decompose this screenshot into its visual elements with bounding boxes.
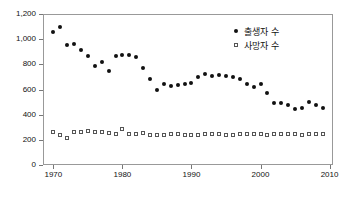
x-tick-mark [53,165,54,169]
data-point-births [155,88,159,92]
data-point-deaths [51,130,55,134]
open-square-icon [228,43,244,47]
x-tick-mark [122,165,123,169]
data-point-deaths [148,133,152,137]
data-point-deaths [162,133,166,137]
data-point-deaths [93,130,97,134]
data-point-births [176,83,180,87]
data-point-births [114,54,118,58]
data-point-births [86,54,90,58]
data-point-deaths [231,133,235,137]
data-point-deaths [272,132,276,136]
data-point-deaths [176,132,180,136]
x-tick-mark [330,165,331,169]
data-point-births [307,100,311,104]
x-tick-mark [261,165,262,169]
data-point-births [314,103,318,107]
data-point-deaths [86,129,90,133]
data-point-births [183,82,187,86]
x-tick-label: 1980 [113,171,131,179]
legend-item-deaths: 사망자 수 [228,38,279,52]
data-point-births [252,85,256,89]
data-point-deaths [169,132,173,136]
data-point-births [93,64,97,68]
data-point-births [279,101,283,105]
x-tick-label: 1990 [183,171,201,179]
data-point-births [100,60,104,64]
data-point-births [148,77,152,81]
data-point-deaths [127,132,131,136]
data-point-deaths [210,132,214,136]
data-point-deaths [79,130,83,134]
data-point-deaths [265,133,269,137]
data-point-births [58,25,62,29]
data-point-deaths [238,132,242,136]
data-point-births [210,74,214,78]
data-point-deaths [252,132,256,136]
data-point-deaths [196,133,200,137]
x-tick-label: 2010 [321,171,339,179]
data-point-deaths [314,132,318,136]
data-point-deaths [259,132,263,136]
data-point-deaths [224,133,228,137]
data-point-deaths [293,132,297,136]
data-point-deaths [155,133,159,137]
data-point-deaths [107,131,111,135]
data-point-deaths [183,133,187,137]
x-tick-mark [191,165,192,169]
x-tick-label: 2000 [252,171,270,179]
data-point-deaths [141,131,145,135]
data-point-deaths [72,130,76,134]
x-tick-label: 1970 [44,171,62,179]
data-point-deaths [65,136,69,140]
data-point-deaths [286,132,290,136]
filled-circle-icon [228,29,244,33]
data-point-deaths [245,132,249,136]
data-point-deaths [100,130,104,134]
data-point-deaths [134,132,138,136]
data-point-births [231,75,235,79]
data-point-deaths [217,132,221,136]
chart-legend: 출생자 수 사망자 수 [228,24,279,52]
data-point-deaths [58,133,62,137]
legend-label-births: 출생자 수 [244,25,279,38]
data-point-births [107,69,111,73]
data-point-deaths [321,132,325,136]
data-point-births [134,55,138,59]
birth-death-scatter-chart: 02004006008001,0001,200 1970198019902000… [0,0,355,203]
data-point-deaths [300,133,304,137]
data-point-births [293,107,297,111]
data-point-births [79,48,83,52]
data-point-deaths [189,133,193,137]
data-point-deaths [120,127,124,131]
data-point-deaths [203,132,207,136]
legend-label-deaths: 사망자 수 [244,39,279,52]
data-point-deaths [279,132,283,136]
data-point-deaths [114,132,118,136]
legend-item-births: 출생자 수 [228,24,279,38]
data-point-deaths [307,132,311,136]
